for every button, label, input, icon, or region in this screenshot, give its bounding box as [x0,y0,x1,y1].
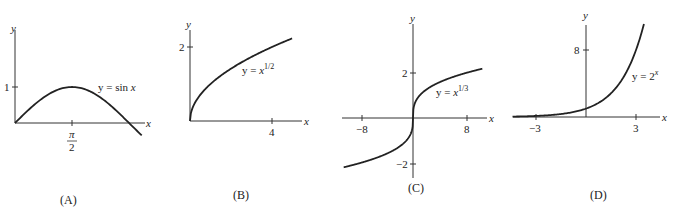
panel-a-xlabel: x [145,117,151,129]
panel-d-ytick-label: 8 [574,44,580,56]
panel-a-ytick-label: 1 [4,81,10,93]
panel-b-function-label: y = x1/2 [242,62,274,76]
panel-b-xtick-label: 4 [269,126,275,138]
panel-d-function-label: y = 2x [632,68,659,82]
panel-a-xtick-numerator: π [69,128,75,140]
panel-b: y x 2 4 y = x1/2 (B) [179,18,309,202]
panel-c-ytick-pos-label: 2 [402,67,408,79]
panel-b-xlabel: x [303,115,309,127]
panel-a-xtick-denominator: 2 [69,141,75,153]
panel-d-xtick-neg-label: −3 [529,122,541,134]
panel-b-sqrt-curve [190,38,292,121]
panel-d-xtick-pos-label: 3 [633,122,639,134]
panel-b-ytick-label: 2 [179,41,185,53]
panel-c-xtick-neg-label: −8 [356,123,368,135]
panel-c-ytick-neg-label: −2 [396,158,408,170]
panel-c-xlabel: x [488,112,494,124]
panel-c-ylabel: y [409,12,415,24]
panel-a-ylabel: y [10,22,16,34]
panel-c: y x 2 −2 −8 8 y = x1/3 (C) [342,12,494,195]
panel-d-exponential-curve [513,24,644,117]
panel-c-xtick-pos-label: 8 [464,123,470,135]
panel-d-xlabel: x [661,111,667,123]
panel-a-function-label: y = sin x [98,81,136,93]
panel-b-caption: (B) [233,188,249,202]
panel-a-sine-curve [15,87,142,135]
panel-d-caption: (D) [590,188,607,202]
function-graphs-figure: y x 1 π 2 y = sin x (A) y x 2 4 y = x1/2… [0,0,674,212]
panel-c-function-label: y = x1/3 [436,84,468,98]
panel-a-caption: (A) [60,193,77,207]
panel-b-ylabel: y [185,18,191,30]
panel-a: y x 1 π 2 y = sin x (A) [4,22,151,207]
panel-c-caption: (C) [408,181,424,195]
panel-d: y x 8 −3 3 y = 2x (D) [513,9,667,202]
panel-d-ylabel: y [582,9,588,21]
